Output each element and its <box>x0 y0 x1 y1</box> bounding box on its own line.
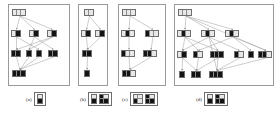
legend-cell-filled <box>104 99 108 103</box>
node-b-l3-0 <box>84 70 90 77</box>
node-b-l1-1 <box>95 30 105 37</box>
panel-caption-c: (c) <box>122 92 158 106</box>
node-a-l1-2 <box>47 30 57 37</box>
node-b-l2-0 <box>82 50 92 57</box>
node-cell-empty <box>130 51 134 56</box>
node-cell-empty <box>234 31 238 36</box>
node-cell-filled <box>219 52 223 57</box>
panel-caption-a: (a) <box>26 92 46 106</box>
node-b-l1-0 <box>81 30 91 37</box>
legend-cell-empty <box>138 99 142 103</box>
panel-caption-b: (b) <box>80 92 112 106</box>
node-cell-filled <box>52 31 56 36</box>
node-cell-empty <box>186 31 190 36</box>
node-cell-empty <box>187 10 191 15</box>
node-d-l1-0 <box>177 30 191 37</box>
node-d-l2-5 <box>258 51 272 58</box>
node-d-l2-0 <box>177 51 187 58</box>
node-a-l2-2 <box>36 50 42 57</box>
panel-label-b: (b) <box>80 97 86 102</box>
panel-b <box>78 4 108 86</box>
node-cell-empty <box>154 31 158 36</box>
node-a-l2-0 <box>11 50 21 57</box>
node-cell-filled <box>180 72 184 77</box>
node-cell-filled <box>100 31 104 36</box>
node-d-l1-1 <box>201 30 215 37</box>
node-c-l0-0 <box>122 9 136 16</box>
node-cell-empty <box>131 10 135 15</box>
node-cell-empty <box>130 31 134 36</box>
legend-swatch <box>215 94 225 104</box>
node-d-l3-0 <box>179 71 185 78</box>
node-cell-empty <box>89 10 93 15</box>
node-d-l1-2 <box>225 30 239 37</box>
legend-a <box>34 92 46 106</box>
panel-caption-d: (d) <box>196 92 228 106</box>
node-cell-filled <box>16 31 20 36</box>
legend-b <box>88 92 112 106</box>
legend-swatch <box>207 94 213 104</box>
panel-d <box>174 4 274 86</box>
node-cell-filled <box>249 52 253 57</box>
node-cell-filled <box>218 72 222 77</box>
node-cell-filled <box>16 51 20 56</box>
legend-cell-filled <box>38 99 42 103</box>
node-d-l3-1 <box>191 71 201 78</box>
node-c-l3-0 <box>122 70 136 77</box>
legend-d <box>204 92 228 106</box>
node-cell-filled <box>27 51 31 56</box>
node-cell-filled <box>196 72 200 77</box>
node-cell-empty <box>267 52 271 57</box>
legend-swatch <box>145 94 155 104</box>
node-cell-filled <box>53 51 57 56</box>
legend-c <box>130 92 158 106</box>
node-a-l3-0 <box>12 70 26 77</box>
node-a-l1-0 <box>11 30 21 37</box>
node-d-l2-4 <box>248 51 254 58</box>
node-a-l2-3 <box>48 50 58 57</box>
node-cell-filled <box>37 51 41 56</box>
node-d-l3-2 <box>209 71 223 78</box>
node-d-l2-3 <box>234 51 244 58</box>
panel-label-c: (c) <box>122 97 128 102</box>
node-cell-filled <box>87 51 91 56</box>
legend-swatch <box>133 94 143 104</box>
node-cell-filled <box>21 71 25 76</box>
node-a-l0-0 <box>12 9 26 16</box>
node-a-l1-1 <box>29 30 39 37</box>
legend-cell-filled <box>92 99 96 103</box>
legend-swatch <box>91 94 97 104</box>
legend-cell-filled <box>150 99 154 103</box>
node-cell-empty <box>198 52 202 57</box>
node-cell-filled <box>85 71 89 76</box>
node-a-l2-1 <box>26 50 32 57</box>
node-cell-empty <box>21 10 25 15</box>
node-d-l0-0 <box>178 9 192 16</box>
node-c-l1-0 <box>121 30 135 37</box>
legend-swatch <box>99 94 109 104</box>
node-cell-filled <box>86 31 90 36</box>
node-cell-empty <box>239 52 243 57</box>
panel-label-a: (a) <box>26 97 32 102</box>
panel-label-d: (d) <box>196 97 202 102</box>
figure-root: (a)(b)(c)(d) <box>0 0 280 116</box>
node-cell-empty <box>152 51 156 56</box>
node-d-l2-2 <box>210 51 224 58</box>
legend-swatch <box>37 94 43 104</box>
node-cell-filled <box>34 31 38 36</box>
node-cell-filled <box>182 52 186 57</box>
node-c-l2-0 <box>121 50 135 57</box>
legend-cell-filled <box>208 99 212 103</box>
node-b-l0-0 <box>84 9 94 16</box>
legend-cell-filled <box>220 99 224 103</box>
node-d-l2-1 <box>193 51 203 58</box>
node-c-l2-1 <box>143 50 157 57</box>
node-cell-empty <box>131 71 135 76</box>
node-cell-empty <box>210 31 214 36</box>
node-c-l1-1 <box>145 30 159 37</box>
